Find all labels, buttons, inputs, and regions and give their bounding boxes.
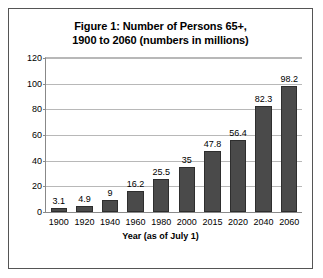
chart-title: Figure 1: Number of Persons 65+, 1900 to…: [9, 19, 312, 47]
x-axis-tick-label: 2000: [177, 217, 197, 227]
y-axis-tick-label: 0: [37, 207, 42, 217]
y-axis-tick-mark: [43, 212, 46, 213]
x-axis-tick-label: 2020: [228, 217, 248, 227]
x-tick-slot: 1940: [97, 58, 123, 212]
x-axis-tick-label: 2040: [254, 217, 274, 227]
figure-frame: Figure 1: Number of Persons 65+, 1900 to…: [8, 8, 313, 269]
y-axis-tick-label: 80: [32, 104, 42, 114]
x-tick-slot: 1960: [123, 58, 149, 212]
x-axis-tick-label: 1900: [49, 217, 69, 227]
x-axis-line: [46, 212, 302, 213]
x-tick-slot: 1920: [72, 58, 98, 212]
x-tick-slot: 2060: [276, 58, 302, 212]
y-axis-tick-label: 20: [32, 181, 42, 191]
x-tick-slot: 2020: [225, 58, 251, 212]
x-axis-tick-label: 1940: [100, 217, 120, 227]
x-tick-slot: 2015: [200, 58, 226, 212]
x-axis-tick-label: 1980: [151, 217, 171, 227]
x-tick-slot: 2040: [251, 58, 277, 212]
plot-area: 020406080100120 3.14.9916.225.53547.856.…: [45, 57, 302, 212]
y-axis-tick-label: 60: [32, 130, 42, 140]
y-axis-tick-label: 120: [27, 53, 42, 63]
x-axis-tick-label: 1920: [74, 217, 94, 227]
chart-title-line-2: 1900 to 2060 (numbers in millions): [9, 33, 312, 47]
x-axis-tick-label: 2015: [202, 217, 222, 227]
x-tick-slot: 2000: [174, 58, 200, 212]
y-axis-tick-label: 40: [32, 156, 42, 166]
x-axis-title: Year (as of July 1): [9, 231, 312, 241]
x-axis-tick-label: 2060: [279, 217, 299, 227]
chart-title-line-1: Figure 1: Number of Persons 65+,: [9, 19, 312, 33]
x-axis-tick-label: 1960: [126, 217, 146, 227]
x-tick-slot: 1900: [46, 58, 72, 212]
x-tick-slot: 1980: [148, 58, 174, 212]
y-axis-tick-label: 100: [27, 79, 42, 89]
